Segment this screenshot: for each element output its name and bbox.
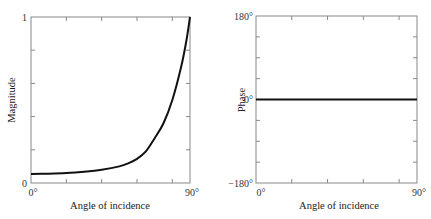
y-axis-title: Phase bbox=[236, 87, 247, 112]
x-tick-label-left: 0° bbox=[29, 187, 38, 198]
x-axis-title: Angle of incidence bbox=[299, 200, 379, 211]
x-tick-label-right: 90° bbox=[412, 187, 426, 198]
x-axis-title: Angle of incidence bbox=[70, 200, 150, 211]
y-tick-label-bottom: 0 bbox=[22, 178, 27, 189]
magnitude-ticks bbox=[31, 17, 190, 183]
y-tick-label-top: 1 bbox=[22, 12, 27, 23]
magnitude-plot-frame bbox=[31, 17, 190, 183]
magnitude-plot: 1 0 0° 90° Angle of incidence Magnitude bbox=[6, 12, 199, 211]
phase-plot: 180° 0° −180° 0° 90° Angle of incidence … bbox=[228, 11, 426, 211]
y-tick-label-bottom: −180° bbox=[228, 178, 253, 189]
x-tick-label-left: 0° bbox=[257, 187, 266, 198]
x-tick-label-right: 90° bbox=[185, 187, 199, 198]
figure: 1 0 0° 90° Angle of incidence Magnitude … bbox=[0, 0, 431, 219]
magnitude-curve bbox=[31, 17, 190, 174]
y-tick-label-top: 180° bbox=[234, 11, 253, 22]
y-axis-title: Magnitude bbox=[6, 77, 17, 123]
